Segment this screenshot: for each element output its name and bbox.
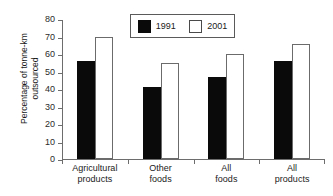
x-axis-label-line: All xyxy=(249,163,333,174)
x-axis-label-all-products: Allproducts xyxy=(249,163,333,185)
y-axis-tick: 40 xyxy=(58,90,62,91)
y-axis-title: Percentage of tonne-km outsourced xyxy=(19,3,40,155)
bar-2001-other-foods xyxy=(161,63,179,159)
bar-2001-all-foods xyxy=(226,54,244,159)
y-axis-tick-label: 30 xyxy=(45,102,55,113)
y-axis-title-line-1: Percentage of tonne-km xyxy=(19,3,30,155)
y-axis-line xyxy=(62,20,63,160)
bar-1991-all-foods xyxy=(208,77,226,159)
bar-1991-other-foods xyxy=(143,87,161,159)
bar-1991-all-products xyxy=(274,61,292,159)
y-axis-tick-label: 40 xyxy=(45,84,55,95)
legend-item-1991: 1991 xyxy=(138,20,176,33)
bar-1991-agricultural-products xyxy=(77,61,95,159)
y-axis-tick: 60 xyxy=(58,55,62,56)
bar-2001-all-products xyxy=(292,44,310,160)
legend-label-1991: 1991 xyxy=(156,21,176,32)
legend-item-2001: 2001 xyxy=(189,20,227,33)
y-axis-tick: 20 xyxy=(58,125,62,126)
y-axis-title-line-2: outsourced xyxy=(29,3,40,155)
y-axis-tick-label: 80 xyxy=(45,14,55,25)
y-axis-tick-label: 60 xyxy=(45,49,55,60)
legend-swatch-icon-1991 xyxy=(138,20,151,33)
plot-area: 01020304050607080 xyxy=(62,20,325,160)
y-axis-tick: 70 xyxy=(58,38,62,39)
y-axis-tick-label: 10 xyxy=(45,137,55,148)
legend-label-2001: 2001 xyxy=(207,21,227,32)
legend-swatch-icon-2001 xyxy=(189,20,202,33)
legend: 1991 2001 xyxy=(130,14,235,38)
y-axis-tick-label: 20 xyxy=(45,119,55,130)
y-axis-tick: 80 xyxy=(58,20,62,21)
x-axis-label-line: products xyxy=(249,174,333,185)
y-axis-tick-label: 50 xyxy=(45,67,55,78)
y-axis-tick: 50 xyxy=(58,73,62,74)
y-axis-tick: 10 xyxy=(58,143,62,144)
bar-chart: Percentage of tonne-km outsourced 010203… xyxy=(0,0,333,196)
y-axis-tick-label: 70 xyxy=(45,32,55,43)
y-axis-tick: 30 xyxy=(58,108,62,109)
bar-2001-agricultural-products xyxy=(95,37,113,159)
